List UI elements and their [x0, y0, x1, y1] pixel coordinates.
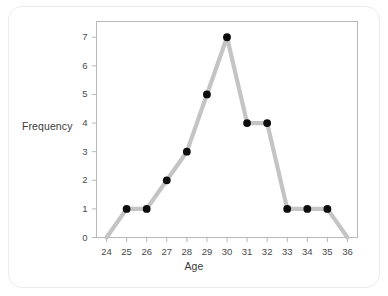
y-tick-label: 7 — [72, 31, 88, 42]
y-tick-label: 6 — [72, 60, 88, 71]
x-tick-label: 32 — [256, 246, 278, 257]
y-tick-label: 3 — [72, 146, 88, 157]
x-tick-label: 30 — [216, 246, 238, 257]
x-tick-label: 28 — [176, 246, 198, 257]
x-tick-label: 26 — [136, 246, 158, 257]
axis-lines — [97, 22, 358, 238]
x-tick-label: 31 — [236, 246, 258, 257]
x-tick-label: 29 — [196, 246, 218, 257]
frequency-polygon-chart: Frequency Age 01234567 24252627282930313… — [0, 0, 388, 296]
y-tick-label: 0 — [72, 232, 88, 243]
x-tick-label: 34 — [296, 246, 318, 257]
x-tick-label: 24 — [96, 246, 118, 257]
x-tick-label: 33 — [276, 246, 298, 257]
x-tick-label: 27 — [156, 246, 178, 257]
x-tick-label: 35 — [316, 246, 338, 257]
y-tick-label: 1 — [72, 203, 88, 214]
y-tick-label: 5 — [72, 88, 88, 99]
x-tick-label: 25 — [116, 246, 138, 257]
y-tick-label: 2 — [72, 174, 88, 185]
y-tick-label: 4 — [72, 117, 88, 128]
x-tick-label: 36 — [336, 246, 358, 257]
